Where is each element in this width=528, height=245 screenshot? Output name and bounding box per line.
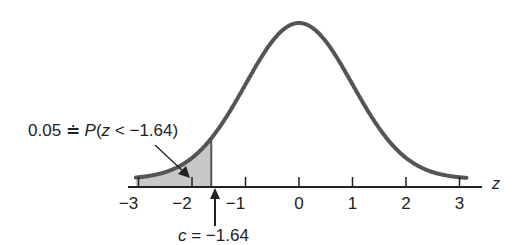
normal-distribution-diagram: −3−2−10123 z 0.05 ≐ P(z < −1.64) c = −1.… [0,0,528,245]
axis-variable-label: z [491,175,500,192]
tail-probability-annotation: 0.05 ≐ P(z < −1.64) [28,121,178,140]
tick-label: −2 [172,194,191,213]
tick-label: 1 [348,194,357,213]
normal-curve [136,23,467,178]
density-curve-path [136,23,467,178]
tick-label: 0 [294,194,303,213]
critical-value-arrowhead-icon [210,188,220,199]
tick-label: −1 [226,194,245,213]
tick-label: −3 [119,194,138,213]
tick-label: 2 [401,194,410,213]
critical-value-label: c = −1.64 [178,226,249,245]
tick-label: 3 [455,194,464,213]
